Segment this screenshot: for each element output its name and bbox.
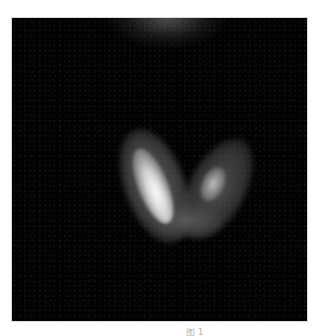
figure-caption: 图 1 bbox=[186, 328, 246, 336]
scintigraphy-image bbox=[12, 18, 307, 321]
